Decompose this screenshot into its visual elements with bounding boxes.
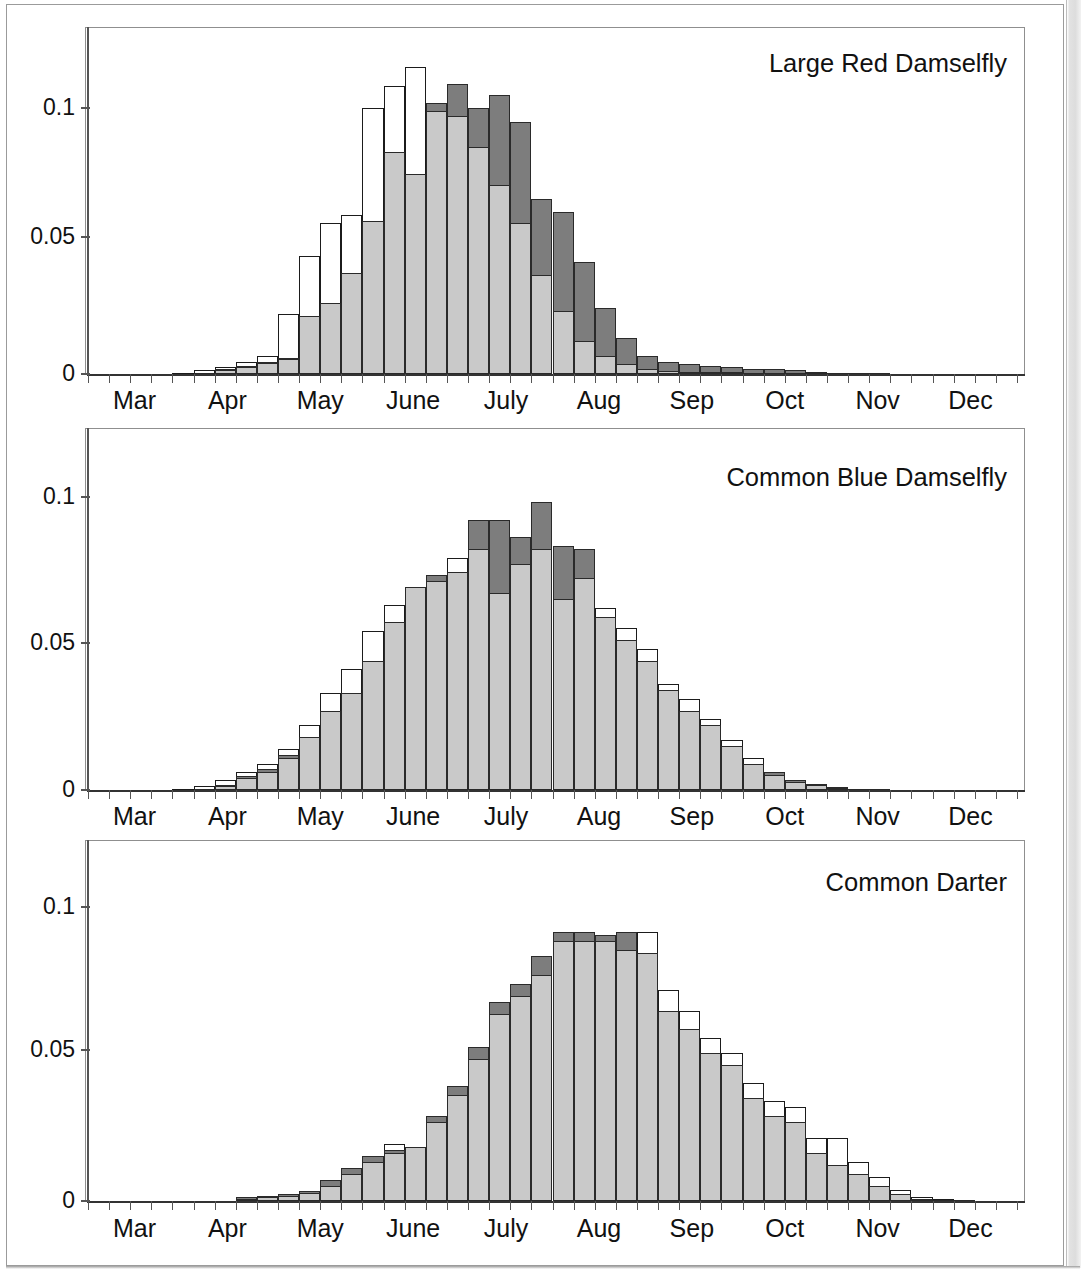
x-tick-mark <box>806 790 807 799</box>
x-tick-mark <box>236 790 237 799</box>
histogram-bar <box>616 364 637 374</box>
x-tick-mark <box>320 374 321 383</box>
month-label-dec: Dec <box>914 1215 1027 1241</box>
x-tick-mark <box>700 1201 701 1210</box>
y-tick-mark <box>81 642 90 644</box>
x-tick-mark <box>236 1201 237 1210</box>
histogram-bar <box>362 221 383 374</box>
x-tick-mark <box>616 374 617 383</box>
x-tick-mark <box>405 1201 406 1210</box>
histogram-bar <box>806 1153 827 1201</box>
histogram-bar <box>405 174 426 374</box>
x-tick-mark <box>679 1201 680 1210</box>
x-tick-mark <box>341 790 342 799</box>
x-tick-mark <box>574 374 575 383</box>
histogram-bar <box>764 775 785 790</box>
x-tick-mark <box>890 1201 891 1210</box>
histogram-bar <box>489 593 510 790</box>
histogram-bar <box>785 782 806 790</box>
histogram-bar <box>468 549 489 790</box>
x-tick-mark <box>553 374 554 383</box>
page-edge-gradient <box>1066 0 1081 1268</box>
x-tick-mark <box>172 1201 173 1210</box>
figure-page: 00.050.1 MarAprMayJuneJulyAugSepOctNovDe… <box>0 0 1087 1275</box>
x-tick-mark <box>869 374 870 383</box>
histogram-bar <box>679 711 700 790</box>
x-tick-mark <box>637 790 638 799</box>
x-tick-mark <box>954 1201 955 1210</box>
x-tick-mark <box>764 1201 765 1210</box>
histogram-bar <box>236 367 257 374</box>
y-tick-label: 0.05 <box>0 1038 75 1061</box>
x-tick-mark <box>1017 374 1018 383</box>
histogram-bar <box>700 725 721 790</box>
x-tick-mark <box>890 374 891 383</box>
x-tick-mark <box>489 374 490 383</box>
x-tick-mark <box>489 790 490 799</box>
x-tick-mark <box>848 1201 849 1210</box>
y-tick-label: 0.05 <box>0 225 75 248</box>
x-tick-mark <box>405 790 406 799</box>
x-tick-mark <box>194 1201 195 1210</box>
x-tick-mark <box>468 374 469 383</box>
x-tick-mark <box>848 790 849 799</box>
x-tick-mark <box>109 1201 110 1210</box>
month-label-dec: Dec <box>914 387 1027 413</box>
histogram-bar <box>278 359 299 374</box>
histogram-bar <box>890 1194 911 1201</box>
x-tick-mark <box>658 1201 659 1210</box>
histogram-bar <box>341 273 362 374</box>
x-tick-mark <box>299 1201 300 1210</box>
histogram-bar <box>447 116 468 374</box>
histogram-bar <box>489 185 510 374</box>
x-tick-mark <box>806 374 807 383</box>
x-tick-mark <box>278 374 279 383</box>
histogram-bar <box>320 711 341 790</box>
y-tick-label: 0.1 <box>0 485 75 508</box>
x-tick-mark <box>1017 790 1018 799</box>
histogram-bar <box>595 356 616 374</box>
x-tick-mark <box>869 1201 870 1210</box>
histogram-bar <box>869 1186 890 1201</box>
x-tick-mark <box>426 374 427 383</box>
x-tick-mark <box>341 374 342 383</box>
x-tick-mark <box>616 790 617 799</box>
x-tick-mark <box>933 1201 934 1210</box>
x-tick-mark <box>151 374 152 383</box>
x-tick-mark <box>278 1201 279 1210</box>
x-tick-mark <box>911 1201 912 1210</box>
x-tick-mark <box>468 790 469 799</box>
x-tick-mark <box>172 374 173 383</box>
histogram-bar <box>299 1193 320 1201</box>
panel-common-darter: 00.050.1 MarAprMayJuneJulyAugSepOctNovDe… <box>85 840 1025 1240</box>
x-tick-mark <box>764 790 765 799</box>
x-tick-mark <box>975 790 976 799</box>
x-tick-mark <box>320 1201 321 1210</box>
x-tick-mark <box>785 374 786 383</box>
histogram-bar <box>553 941 574 1201</box>
x-tick-mark <box>637 374 638 383</box>
histogram-bar <box>426 1122 447 1201</box>
histogram-bar <box>405 587 426 790</box>
x-tick-mark <box>130 790 131 799</box>
histogram-bar <box>320 303 341 374</box>
histogram-bar <box>320 1186 341 1201</box>
x-tick-mark <box>510 374 511 383</box>
x-tick-mark <box>194 790 195 799</box>
histogram-bar <box>574 941 595 1201</box>
histogram-bar <box>468 1059 489 1201</box>
histogram-bar <box>405 1147 426 1201</box>
histogram-bar <box>426 581 447 790</box>
x-tick-mark <box>489 1201 490 1210</box>
histogram-bar <box>595 617 616 790</box>
x-tick-mark <box>362 790 363 799</box>
x-tick-mark <box>447 790 448 799</box>
x-tick-mark <box>595 1201 596 1210</box>
x-tick-mark <box>848 374 849 383</box>
x-tick-mark <box>743 374 744 383</box>
histogram-bar <box>700 1053 721 1201</box>
x-tick-mark <box>151 1201 152 1210</box>
x-tick-mark <box>869 790 870 799</box>
histogram-bar <box>384 622 405 790</box>
x-tick-mark <box>933 374 934 383</box>
